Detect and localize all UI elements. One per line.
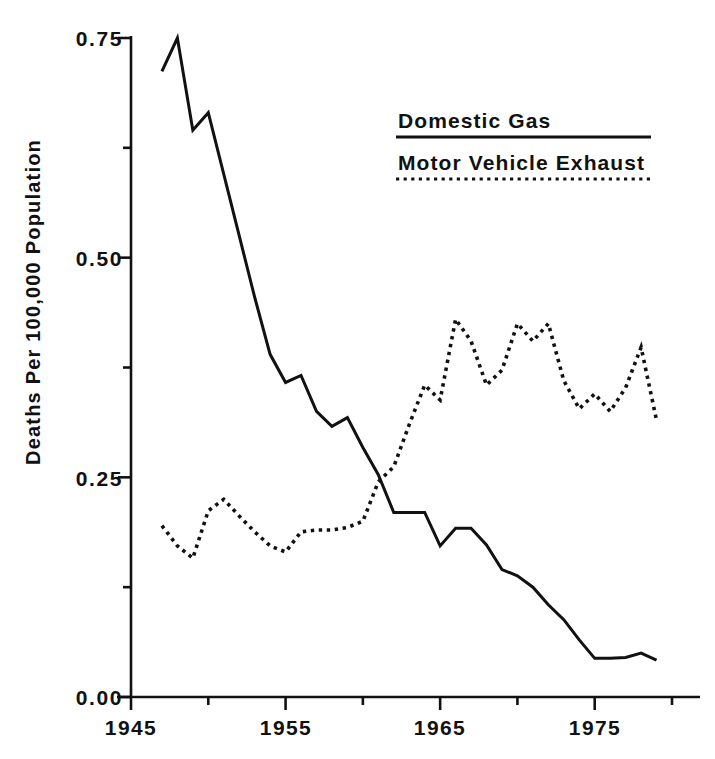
x-tick-label: 1965: [414, 716, 466, 739]
y-tick-label: 0.75: [76, 27, 123, 50]
y-tick-label: 0.00: [76, 686, 123, 709]
legend-label-motor-vehicle-exhaust: Motor Vehicle Exhaust: [398, 151, 645, 174]
chart-page: Deaths Per 100,000 Population 0.75 0.50 …: [0, 0, 715, 759]
x-tick-label: 1975: [569, 716, 621, 739]
x-tick-label: 1945: [105, 716, 157, 739]
y-tick-label: 0.50: [76, 247, 123, 270]
chart-background: [0, 0, 715, 759]
line-chart: Deaths Per 100,000 Population 0.75 0.50 …: [0, 0, 715, 759]
y-tick-label: 0.25: [76, 467, 123, 490]
legend-label-domestic-gas: Domestic Gas: [398, 109, 551, 132]
y-axis-label: Deaths Per 100,000 Population: [22, 139, 44, 465]
x-tick-label: 1955: [260, 716, 312, 739]
